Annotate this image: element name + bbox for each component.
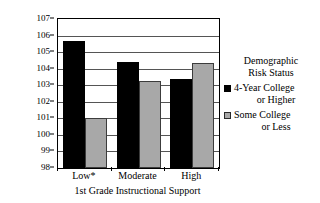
y-axis-tick-mark [50, 34, 54, 35]
legend-entries: 4-Year Collegeor HigherSome Collegeor Le… [224, 82, 318, 133]
y-axis-tick-label: 104 [37, 63, 51, 72]
bar [63, 41, 85, 168]
y-axis-tick-label: 99 [41, 146, 50, 155]
y-axis-tick-labels: 1071061051041031021011009998 [26, 18, 54, 167]
y-axis-tick-label: 103 [37, 80, 51, 89]
legend-entry-label-line-2: or Higher [224, 94, 318, 106]
y-axis-tick-label: 106 [37, 30, 51, 39]
bar [85, 118, 107, 168]
legend-entry: 4-Year Collegeor Higher [224, 82, 318, 106]
legend-entry-label-line-1: 4-Year College [234, 82, 294, 94]
legend-title-line-2: Risk Status [224, 67, 318, 79]
legend-entry-label-line-2: or Less [224, 121, 318, 133]
y-axis-tick-label: 100 [37, 129, 51, 138]
legend-swatch-icon [224, 85, 231, 92]
legend-entry: Some Collegeor Less [224, 109, 318, 133]
x-axis-tick-label: Low* [72, 170, 95, 182]
legend-title-line-1: Demographic [224, 55, 318, 67]
bar [170, 79, 192, 168]
x-axis-tick-labels: Low*ModerateHigh [57, 170, 218, 184]
y-axis-tick-label: 105 [37, 47, 51, 56]
y-axis-tick-label: 107 [37, 14, 51, 23]
y-axis-tick-mark [50, 51, 54, 52]
x-axis-tick-label: High [181, 170, 201, 182]
y-axis-tick-mark [50, 167, 54, 168]
y-axis-tick-mark [50, 117, 54, 118]
bar-group [58, 19, 112, 168]
x-axis-title: 1st Grade Instructional Support [57, 185, 218, 197]
bar [117, 62, 139, 168]
bar-chart-figure: Woodcock Johnson 1st Grade Composites-Ad… [0, 0, 320, 203]
bar-group [165, 19, 219, 168]
bar [192, 63, 214, 168]
y-axis-tick-mark [50, 133, 54, 134]
y-axis-tick-mark [50, 84, 54, 85]
plot-area [57, 18, 220, 169]
y-axis-tick-label: 102 [37, 96, 51, 105]
y-axis-tick-mark [50, 18, 54, 19]
y-axis-tick-mark [50, 67, 54, 68]
y-axis-tick-mark [50, 150, 54, 151]
legend: Demographic Risk Status 4-Year Collegeor… [224, 55, 318, 133]
bar-group [112, 19, 166, 168]
legend-entry-label-line-1: Some College [234, 109, 290, 121]
bars-layer [58, 19, 219, 168]
y-axis-tick-label: 101 [37, 113, 51, 122]
legend-swatch-icon [224, 112, 231, 119]
y-axis-tick-mark [50, 100, 54, 101]
x-axis-tick-mark [218, 167, 219, 171]
x-axis-tick-label: Moderate [118, 170, 156, 182]
bar [139, 81, 161, 168]
y-axis-tick-label: 98 [41, 163, 50, 172]
